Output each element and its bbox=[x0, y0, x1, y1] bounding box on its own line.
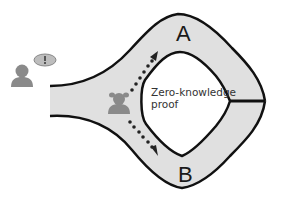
zk-line-1: Zero-knowledge bbox=[151, 86, 236, 98]
zero-knowledge-proof-label: Zero-knowledge proof bbox=[151, 86, 236, 110]
speech-bubble-icon bbox=[34, 54, 56, 66]
path-a-label: A bbox=[176, 21, 191, 47]
path-b-label: B bbox=[178, 162, 193, 188]
zk-line-2: proof bbox=[151, 98, 236, 110]
verifier-person-icon bbox=[11, 65, 33, 88]
cave-diagram bbox=[0, 0, 286, 203]
